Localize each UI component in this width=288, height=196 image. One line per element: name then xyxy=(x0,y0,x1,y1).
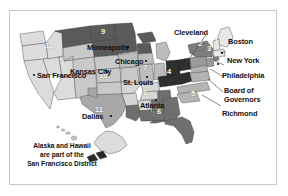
city-dot-atlanta xyxy=(155,99,157,101)
city-dot-new-york xyxy=(217,63,219,65)
district-number-7: 7 xyxy=(143,64,147,72)
city-label-new-york: New York xyxy=(227,57,259,64)
city-label-dallas: Dallas xyxy=(82,113,103,120)
board-label-line2: Governors xyxy=(224,96,260,103)
board-label-line1: Board of xyxy=(224,87,254,94)
note-line-2: are part of the xyxy=(14,151,110,160)
city-dot-san-francisco xyxy=(33,74,35,76)
alaska-hawaii-note: Alaska and Hawaii are part of the San Fr… xyxy=(14,142,110,169)
district-number-3: 3 xyxy=(207,45,211,53)
city-dot-dallas xyxy=(110,115,112,117)
district-number-12: 12 xyxy=(45,42,53,50)
city-dot-chicago xyxy=(145,60,147,62)
city-label-boston: Boston xyxy=(228,38,253,45)
city-label-richmond: Richmond xyxy=(222,110,257,117)
city-dot-minneapolis xyxy=(127,46,129,48)
city-label-st-louis: St. Louis xyxy=(123,79,153,86)
city-dot-kansas-city xyxy=(106,71,108,73)
city-dot-boston xyxy=(221,52,223,54)
district-number-8: 8 xyxy=(143,89,147,97)
note-line-1: Alaska and Hawaii xyxy=(14,142,110,151)
federal-reserve-districts-figure: 12 9 10 11 7 8 4 5 6 3 2 1 San Francisco… xyxy=(0,0,288,196)
city-dot-st-louis xyxy=(146,76,148,78)
city-label-atlanta: Atlanta xyxy=(140,102,164,109)
city-label-cleveland: Cleveland xyxy=(174,29,208,36)
district-number-9: 9 xyxy=(101,28,105,36)
city-label-minneapolis: Minneapolis xyxy=(87,44,129,51)
city-label-chicago: Chicago xyxy=(115,58,143,65)
note-line-3: San Francisco District xyxy=(14,160,110,169)
city-label-philadelphia: Philadelphia xyxy=(222,72,264,79)
district-number-4: 4 xyxy=(167,68,171,76)
district-number-2: 2 xyxy=(198,40,202,48)
district-number-1: 1 xyxy=(214,37,218,45)
district-number-5: 5 xyxy=(191,90,195,98)
